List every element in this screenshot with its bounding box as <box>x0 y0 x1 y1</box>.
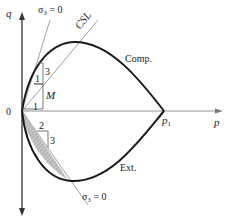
q-axis-label: q <box>6 7 12 19</box>
sigma3-upper-label: σ₃ = 0 <box>38 4 63 15</box>
csl-label: CSL <box>72 9 93 31</box>
extension-label: Ext. <box>120 162 136 173</box>
p1-label: p1 <box>161 114 172 128</box>
lower-rise-label: 3 <box>50 135 55 146</box>
origin-label: 0 <box>6 106 11 117</box>
csl-rise-label: M <box>45 89 56 101</box>
q-axis-arrow-up-icon <box>19 12 25 20</box>
sigma3-lower-label: σ₃ = 0 <box>82 191 107 202</box>
p-axis-arrow-icon <box>215 109 223 114</box>
q-axis-arrow-down-icon <box>19 208 25 216</box>
upper-run-label: 1 <box>35 73 40 84</box>
compression-label: Comp. <box>125 53 152 64</box>
upper-rise-label: 3 <box>45 66 50 77</box>
yield-surface-diagram: q 0 p p1 Comp. Ext. CSL σ₃ = 0 σ₃ = 0 3 … <box>0 0 232 222</box>
sigma3-lower-line <box>22 111 88 205</box>
csl-run-label: 1 <box>33 101 38 112</box>
csl-line <box>22 20 98 111</box>
p-axis-label: p <box>213 116 220 128</box>
lower-run-label: 2 <box>39 120 44 131</box>
